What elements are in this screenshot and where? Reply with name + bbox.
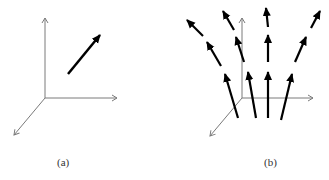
vector-arrow bbox=[248, 72, 256, 118]
vector-arrow bbox=[311, 11, 320, 28]
vector-arrow bbox=[187, 20, 203, 36]
panel-b bbox=[187, 8, 320, 136]
y-axis-a bbox=[14, 98, 45, 135]
vector-arrow bbox=[223, 11, 234, 30]
vector-arrow bbox=[236, 37, 244, 62]
vector-arrow-a bbox=[68, 35, 100, 74]
vector-field-b bbox=[187, 8, 320, 120]
vector-arrow bbox=[207, 42, 221, 66]
axes-a bbox=[14, 18, 117, 135]
panel-a bbox=[14, 18, 117, 135]
vector-arrow bbox=[225, 74, 238, 118]
caption-a: (a) bbox=[57, 156, 69, 168]
vector-arrow bbox=[266, 8, 268, 27]
vector-arrow bbox=[295, 37, 306, 62]
vector-arrow bbox=[281, 74, 292, 120]
diagram-canvas bbox=[0, 0, 329, 180]
caption-b: (b) bbox=[264, 156, 277, 168]
